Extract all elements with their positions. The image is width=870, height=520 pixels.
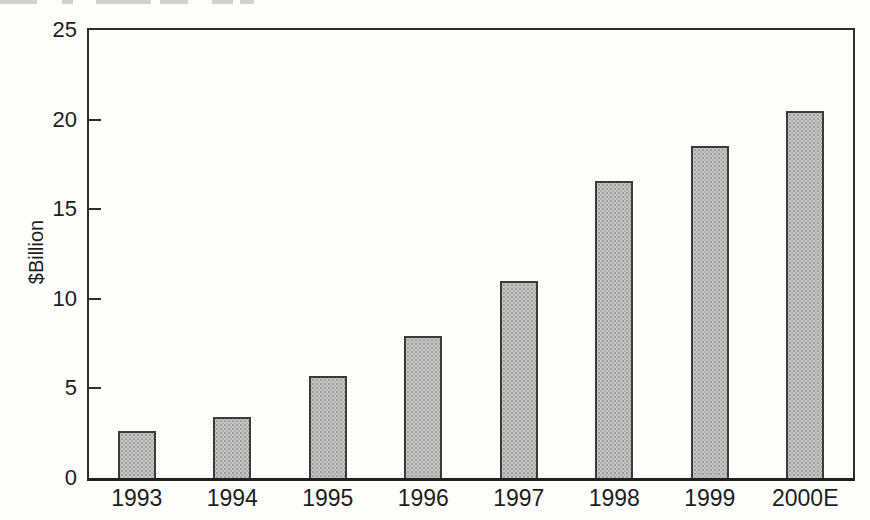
crop-fragment bbox=[240, 0, 254, 4]
y-tick-label-10: 10 bbox=[29, 288, 77, 310]
bar-1996 bbox=[404, 336, 442, 478]
y-tick-mark-20 bbox=[89, 119, 101, 121]
x-tick-label-1998: 1998 bbox=[567, 486, 663, 510]
bar-2000E bbox=[786, 111, 824, 478]
bar-1997 bbox=[500, 281, 538, 478]
x-tick-label-1996: 1996 bbox=[376, 486, 472, 510]
crop-fragment bbox=[212, 0, 233, 4]
x-tick-label-2000E: 2000E bbox=[758, 486, 854, 510]
x-tick-label-1994: 1994 bbox=[185, 486, 281, 510]
x-tick-label-1993: 1993 bbox=[89, 486, 185, 510]
y-tick-label-15: 15 bbox=[29, 198, 77, 220]
x-tick-label-1999: 1999 bbox=[662, 486, 758, 510]
y-tick-label-25: 25 bbox=[29, 19, 77, 41]
bar-1994 bbox=[213, 417, 251, 478]
crop-fragment bbox=[62, 0, 73, 4]
y-axis-title: $Billion bbox=[25, 220, 48, 284]
y-tick-label-5: 5 bbox=[29, 377, 77, 399]
y-tick-label-0: 0 bbox=[29, 467, 77, 489]
crop-fragment bbox=[160, 0, 188, 4]
x-tick-label-1997: 1997 bbox=[471, 486, 567, 510]
scanned-figure-page: $Billion 0510152025199319941995199619971… bbox=[0, 0, 870, 520]
bar-1998 bbox=[595, 181, 633, 478]
bar-1995 bbox=[309, 376, 347, 478]
crop-fragment bbox=[96, 0, 151, 4]
plot-area: 0510152025199319941995199619971998199920… bbox=[87, 28, 855, 481]
x-tick-label-1995: 1995 bbox=[280, 486, 376, 510]
bar-1999 bbox=[691, 146, 729, 478]
y-tick-mark-10 bbox=[89, 298, 101, 300]
y-tick-mark-15 bbox=[89, 208, 101, 210]
y-tick-label-20: 20 bbox=[29, 109, 77, 131]
y-tick-mark-5 bbox=[89, 387, 101, 389]
crop-fragment bbox=[0, 0, 37, 4]
bar-1993 bbox=[118, 431, 156, 478]
